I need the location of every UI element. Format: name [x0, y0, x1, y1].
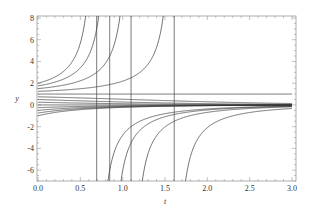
solution-curves-chart: 0.00.51.01.52.02.53.0 -6-4-202468 t y: [0, 0, 310, 216]
x-tick-label: 0.0: [33, 184, 43, 193]
y-tick-label: 2: [30, 79, 34, 88]
x-tick-label: 0.5: [75, 184, 85, 193]
x-tick-label: 3.0: [287, 184, 297, 193]
y-tick-label: -4: [27, 144, 34, 153]
y-axis-label: y: [14, 94, 19, 103]
y-tick-label: -6: [27, 166, 34, 175]
plot-frame: [37, 16, 296, 181]
plot-border: [37, 16, 296, 181]
x-axis-label: t: [164, 197, 167, 206]
y-tick-label: 4: [30, 57, 34, 66]
solution-curve: [38, 97, 292, 104]
x-tick-label: 2.5: [245, 184, 255, 193]
x-tick-label: 2.0: [202, 184, 212, 193]
y-tick-label: 8: [30, 14, 34, 23]
y-tick-label: 6: [30, 36, 34, 45]
y-tick-label: -2: [27, 123, 34, 132]
x-tick-label: 1.0: [118, 184, 128, 193]
y-tick-label: 0: [30, 101, 34, 110]
solution-curve: [38, 105, 292, 110]
x-tick-label: 1.5: [160, 184, 170, 193]
